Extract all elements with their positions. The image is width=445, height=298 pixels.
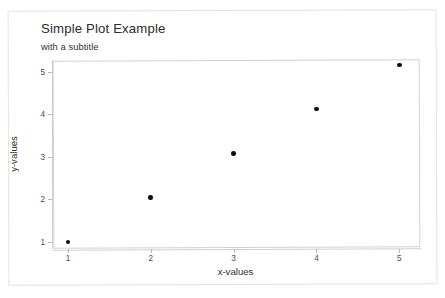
data-point xyxy=(231,151,236,156)
page-title: Simple Plot Example xyxy=(41,21,166,36)
y-tick-label: 5 xyxy=(40,67,45,76)
x-tick-mark xyxy=(68,249,69,253)
y-tick-mark xyxy=(48,199,52,200)
data-point xyxy=(148,195,153,200)
y-tick-mark xyxy=(48,114,52,115)
x-axis-label: x-values xyxy=(0,266,445,277)
y-tick-mark xyxy=(48,157,52,158)
plot-frame xyxy=(53,59,421,248)
y-tick-mark xyxy=(48,242,52,243)
x-tick-mark xyxy=(234,249,235,253)
x-tick-label: 3 xyxy=(231,254,236,263)
x-axis-line xyxy=(53,248,421,250)
x-tick-label: 1 xyxy=(66,254,71,263)
plot-area xyxy=(53,60,420,248)
y-tick-label: 3 xyxy=(40,152,45,161)
x-tick-mark xyxy=(151,249,152,253)
x-tick-label: 5 xyxy=(397,254,402,263)
y-tick-mark xyxy=(48,72,52,73)
chart-subtitle: with a subtitle xyxy=(41,41,99,52)
x-tick-label: 4 xyxy=(314,254,319,263)
y-axis-line xyxy=(52,60,53,249)
x-tick-mark xyxy=(399,249,400,253)
y-tick-label: 1 xyxy=(40,238,45,247)
y-axis-label: y-values xyxy=(8,136,19,172)
data-point xyxy=(397,63,402,68)
y-tick-label: 2 xyxy=(40,195,45,204)
data-point xyxy=(314,107,319,112)
y-tick-label: 4 xyxy=(40,110,45,119)
x-tick-mark xyxy=(316,249,317,253)
chart-figure: Simple Plot Example with a subtitle 1234… xyxy=(0,0,445,298)
x-tick-label: 2 xyxy=(148,254,153,263)
